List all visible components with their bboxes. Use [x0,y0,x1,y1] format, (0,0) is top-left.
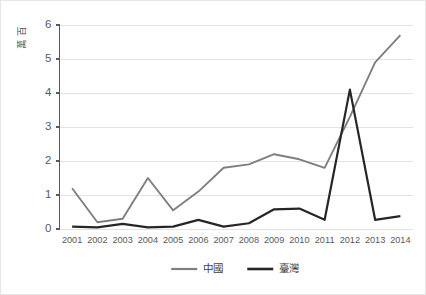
y-axis-title: 百萬 [16,26,27,49]
x-tick-label-2013: 2013 [365,235,385,245]
chart-legend: 中國臺灣 [171,262,299,274]
x-tick-label-2005: 2005 [163,235,183,245]
y-axis-title-char-0: 百 [16,26,27,36]
y-tick-label-2: 2 [45,154,51,166]
x-tick-label-2014: 2014 [390,235,410,245]
x-tick-label-2012: 2012 [340,235,360,245]
x-tick-label-2010: 2010 [289,235,309,245]
gridlines [60,25,414,229]
y-axis-title-char-1: 萬 [16,39,27,49]
x-tick-labels: 2001200220032004200520062007200820092010… [62,235,411,245]
x-tick-label-2002: 2002 [87,235,107,245]
y-tick-label-6: 6 [45,18,51,30]
y-tick-label-3: 3 [45,120,51,132]
y-tick-label-5: 5 [45,52,51,64]
x-tick-label-2007: 2007 [213,235,233,245]
y-tick-labels: 0123456 [45,18,52,234]
legend-label-0: 中國 [203,262,223,274]
x-tick-label-2003: 2003 [112,235,132,245]
x-tick-label-2006: 2006 [188,235,208,245]
legend-label-1: 臺灣 [279,262,299,274]
y-tick-label-0: 0 [45,222,51,234]
line-chart: 0123456 20012002200320042005200620072008… [1,1,426,295]
y-axis [56,25,60,229]
chart-container: 0123456 20012002200320042005200620072008… [0,0,426,295]
data-series [72,35,400,227]
series-line-0 [72,35,400,222]
series-line-1 [72,90,400,228]
x-tick-label-2004: 2004 [138,235,158,245]
x-tick-label-2009: 2009 [264,235,284,245]
x-tick-label-2001: 2001 [62,235,82,245]
x-tick-label-2011: 2011 [315,235,335,245]
x-tick-label-2008: 2008 [239,235,259,245]
y-tick-label-4: 4 [45,86,52,98]
y-tick-label-1: 1 [45,188,51,200]
